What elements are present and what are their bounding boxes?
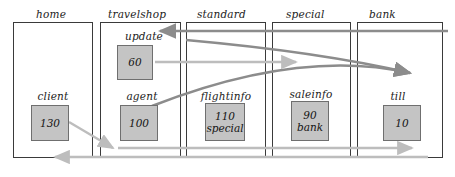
column-label-travelshop: travelshop [108, 8, 166, 20]
object-value-flightinfo-0: 110 [215, 110, 235, 122]
column-label-special: special [286, 8, 325, 20]
column-label-home: home [36, 8, 66, 20]
column-label-bank: bank [369, 8, 396, 20]
object-value-till-0: 10 [395, 117, 408, 129]
object-box-saleinfo: 90bank [291, 101, 329, 141]
object-box-client: 130 [31, 105, 69, 141]
object-box-agent: 100 [120, 105, 158, 141]
diagram-labels-layer: hometravelshopstandardspecialbankupdate6… [0, 0, 455, 177]
object-value-client-0: 130 [40, 117, 60, 129]
object-value-agent-0: 100 [129, 117, 149, 129]
object-box-flightinfo: 110special [205, 103, 245, 141]
object-label-update: update [117, 30, 171, 42]
object-label-client: client [26, 90, 80, 102]
object-value-saleinfo-1: bank [297, 121, 323, 133]
object-box-till: 10 [383, 105, 421, 141]
object-value-flightinfo-1: special [206, 122, 243, 134]
object-label-agent: agent [115, 90, 169, 102]
collaboration-diagram: hometravelshopstandardspecialbankupdate6… [0, 0, 455, 177]
object-box-update: 60 [117, 45, 153, 80]
object-label-flightinfo: flightinfo [198, 90, 254, 102]
object-label-till: till [378, 90, 418, 102]
object-value-update-0: 60 [128, 56, 141, 68]
object-label-saleinfo: saleinfo [283, 88, 339, 100]
object-value-saleinfo-0: 90 [303, 109, 316, 121]
column-label-standard: standard [197, 8, 246, 20]
